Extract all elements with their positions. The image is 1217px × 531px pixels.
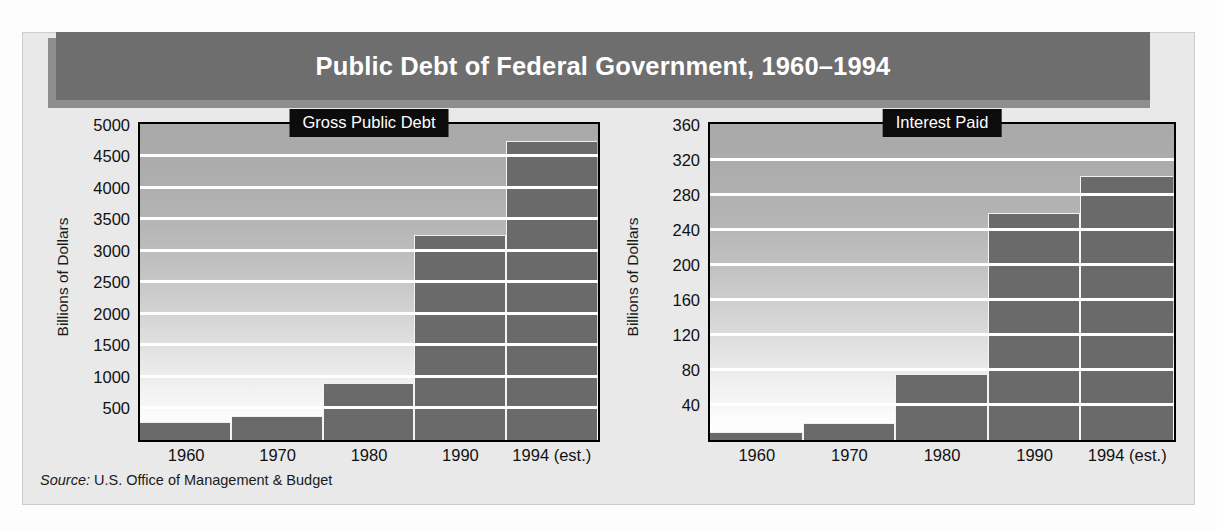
bar [895, 374, 988, 440]
y-tick-label: 40 [682, 396, 700, 413]
y-tick-label: 200 [672, 256, 700, 273]
x-tick-label: 1960 [738, 446, 775, 466]
gridline [710, 193, 1174, 196]
y-axis-title-right-text: Billions of Dollars [624, 218, 642, 337]
gridline [140, 312, 598, 315]
y-tick-label: 1500 [93, 337, 130, 354]
gridline [140, 280, 598, 283]
bar [710, 432, 803, 440]
y-tick-label: 120 [672, 326, 700, 343]
gridline [710, 263, 1174, 266]
x-tick-label: 1970 [831, 446, 868, 466]
y-tick-label: 1000 [93, 368, 130, 385]
bar-group-right [710, 124, 1174, 440]
gridline [140, 154, 598, 157]
bar [803, 423, 896, 440]
x-tick-label: 1994 (est.) [512, 446, 591, 466]
x-tick-label: 1960 [168, 446, 205, 466]
plot-label-right: Interest Paid [883, 109, 1002, 137]
y-tick-label: 500 [102, 400, 130, 417]
gridline [710, 158, 1174, 161]
x-axis-ticks-left: 19601970198019901994 (est.) [138, 446, 600, 472]
bar [140, 422, 231, 440]
plot-area-left [138, 122, 600, 442]
gridline [710, 368, 1174, 371]
x-axis-ticks-right: 19601970198019901994 (est.) [708, 446, 1176, 472]
gridline [710, 403, 1174, 406]
gridline [710, 298, 1174, 301]
figure-title: Public Debt of Federal Government, 1960–… [316, 52, 891, 81]
x-tick-label: 1980 [924, 446, 961, 466]
gridline [140, 186, 598, 189]
x-tick-label: 1980 [351, 446, 388, 466]
bar [323, 383, 414, 440]
bar [988, 213, 1081, 441]
plot-area-right [708, 122, 1176, 442]
figure-root: Public Debt of Federal Government, 1960–… [0, 0, 1217, 531]
y-axis-ticks-right: 4080120160200240280320360 [648, 112, 704, 442]
bar [1080, 176, 1173, 440]
source-label: Source: [40, 472, 90, 488]
gridline [140, 406, 598, 409]
source-note: Source: U.S. Office of Management & Budg… [40, 472, 332, 488]
bar [414, 235, 505, 440]
y-tick-label: 5000 [93, 116, 130, 133]
title-banner: Public Debt of Federal Government, 1960–… [56, 32, 1150, 100]
y-tick-label: 3000 [93, 242, 130, 259]
x-tick-label: 1970 [259, 446, 296, 466]
y-tick-label: 3500 [93, 211, 130, 228]
plot-label-left: Gross Public Debt [290, 109, 449, 137]
y-tick-label: 280 [672, 186, 700, 203]
y-axis-title-left: Billions of Dollars [52, 112, 74, 442]
gridline [140, 343, 598, 346]
y-axis-title-right: Billions of Dollars [622, 112, 644, 442]
y-tick-label: 2000 [93, 305, 130, 322]
y-tick-label: 2500 [93, 274, 130, 291]
bar [231, 416, 322, 440]
y-tick-label: 320 [672, 151, 700, 168]
y-tick-label: 160 [672, 291, 700, 308]
y-tick-label: 4500 [93, 148, 130, 165]
x-tick-label: 1990 [1016, 446, 1053, 466]
x-tick-label: 1990 [442, 446, 479, 466]
y-tick-label: 80 [682, 361, 700, 378]
y-tick-label: 360 [672, 116, 700, 133]
source-text: U.S. Office of Management & Budget [94, 472, 332, 488]
x-tick-label: 1994 (est.) [1088, 446, 1167, 466]
gridline [710, 333, 1174, 336]
gridline [140, 217, 598, 220]
y-tick-label: 4000 [93, 179, 130, 196]
gridline [140, 375, 598, 378]
gridline [710, 228, 1174, 231]
gridline [140, 249, 598, 252]
y-axis-ticks-left: 500100015002000250030003500400045005000 [78, 112, 134, 442]
y-tick-label: 240 [672, 221, 700, 238]
y-axis-title-left-text: Billions of Dollars [54, 218, 72, 337]
